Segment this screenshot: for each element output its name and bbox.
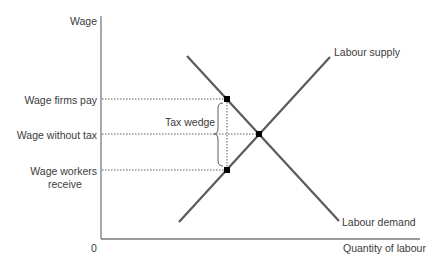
label-wage-workers-receive-line1: Wage workers (0, 165, 97, 177)
label-tax-wedge: Tax wedge (165, 116, 215, 128)
point-wage-firms-pay (224, 96, 230, 102)
x-axis-label: Quantity of labour (343, 242, 426, 254)
origin-label: 0 (91, 242, 97, 254)
label-wage-workers-receive-line2: receive (48, 178, 82, 190)
label-labour-demand: Labour demand (342, 216, 416, 228)
point-equilibrium (256, 131, 262, 137)
label-wage-without-tax: Wage without tax (0, 129, 97, 141)
label-labour-supply: Labour supply (334, 46, 400, 58)
y-axis-label: Wage (40, 15, 97, 27)
label-wage-firms-pay: Wage firms pay (0, 94, 97, 106)
point-wage-workers-receive (224, 167, 230, 173)
labour-demand-curve (187, 56, 339, 221)
labour-supply-curve (179, 57, 330, 222)
tax-wedge-brace (214, 103, 223, 166)
